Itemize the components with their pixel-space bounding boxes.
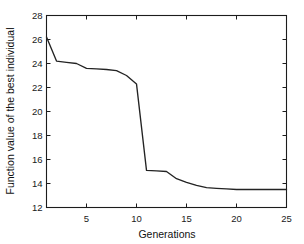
y-tick-label: 14 bbox=[32, 178, 43, 189]
y-tick-label: 16 bbox=[32, 154, 43, 165]
y-tick-label: 20 bbox=[32, 106, 43, 117]
x-tick-label: 25 bbox=[281, 213, 292, 224]
y-tick-label: 22 bbox=[32, 82, 43, 93]
chart-figure: 510152025 121416182022242628 Generations… bbox=[0, 0, 304, 244]
y-tick-label: 18 bbox=[32, 130, 43, 141]
x-axis-title: Generations bbox=[138, 228, 195, 240]
y-tick-label: 24 bbox=[32, 58, 43, 69]
y-tick-label: 26 bbox=[32, 34, 43, 45]
convergence-line-chart: 510152025 121416182022242628 Generations… bbox=[0, 0, 304, 244]
x-tick-label: 5 bbox=[84, 213, 89, 224]
x-tick-label: 10 bbox=[131, 213, 142, 224]
x-tick-label: 20 bbox=[231, 213, 242, 224]
y-axis-title: Function value of the best individual bbox=[4, 28, 16, 195]
y-axis-tick-labels: 121416182022242628 bbox=[32, 10, 43, 213]
x-tick-label: 15 bbox=[181, 213, 192, 224]
y-tick-label: 28 bbox=[32, 10, 43, 21]
y-tick-label: 12 bbox=[32, 202, 43, 213]
